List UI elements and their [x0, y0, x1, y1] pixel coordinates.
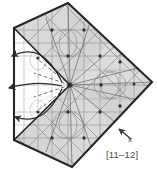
- axis-label-x: x: [128, 135, 132, 144]
- crystal-twin-diagram: [0, 0, 157, 169]
- direction-index-label: [11–12]: [106, 149, 138, 160]
